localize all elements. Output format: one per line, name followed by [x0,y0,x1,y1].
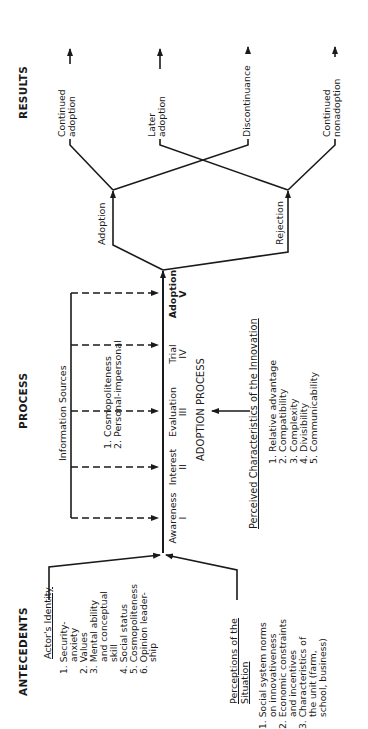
section-results: RESULTS [18,66,29,119]
stage-trial: TrialIV [168,339,189,369]
list-item: 5. Communicability [309,360,319,464]
adoption-branch [113,191,163,270]
to-continued-nonadoption [288,139,335,190]
perceptions-list: 1. Social system norms on innovativeness… [258,619,328,729]
perceived-characteristics-title: Perceived Characteristics of the Innovat… [249,318,259,529]
result-continued-adoption: Continuedadoption [57,89,77,137]
decision-rejection: Rejection [275,201,285,245]
adoption-diagram: ANTECEDENTS PROCESS RESULTS Actor's Iden… [0,0,368,729]
perceptions-title: Perceptions of the Situation [229,618,251,704]
stage-awareness: AwarenessI [168,489,189,547]
stage-interest: InterestII [168,445,189,489]
perceptions-connector [166,555,237,600]
stage-evaluation: EvaluationIII [168,383,189,441]
section-process: PROCESS [18,373,29,429]
decision-adoption: Adoption [97,203,107,245]
rejection-branch [163,191,288,270]
to-later-adoption [160,139,288,190]
to-continued-adoption [70,139,113,190]
perceived-characteristics-list: 1. Relative advantage 2. Compatibility 3… [268,360,319,464]
actors-identity-list: 1. Security- anxiety 2. Values 3. Mental… [59,584,158,674]
list-item: 2. Personal-impersonal [113,340,123,449]
result-later-adoption: Lateradoption [147,96,167,137]
result-continued-nonadoption: Continuednonadoption [322,79,342,137]
information-sources-title: Information Sources [58,365,68,461]
section-antecedents: ANTECEDENTS [18,607,29,696]
information-sources-list: 1. Cosmopoliteness 2. Personal-impersona… [103,340,124,449]
to-discontinuance [113,139,248,190]
stage-adoption: AdoptionV [168,269,189,319]
actors-identity-title: Actor's Identity [43,587,53,659]
list-item: 2. Compatibility [278,360,288,464]
result-discontinuance: Discontinuance [242,65,252,137]
adoption-process-title: ADOPTION PROCESS [196,358,207,461]
